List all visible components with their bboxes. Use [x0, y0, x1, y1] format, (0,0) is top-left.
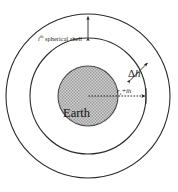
- radius-label: re+ih: [117, 88, 131, 96]
- spherical-shell-diagram: ith spherical shell Δh re+ih Earth: [0, 0, 178, 192]
- radius-increment: ih: [126, 87, 131, 95]
- shell-text: spherical shell: [43, 35, 82, 42]
- earth-label: Earth: [63, 107, 90, 120]
- delta-h-variable: h: [135, 67, 141, 79]
- delta-h-label: Δh: [128, 68, 141, 79]
- shell-label: ith spherical shell: [38, 35, 82, 42]
- diagram-canvas: [0, 0, 178, 192]
